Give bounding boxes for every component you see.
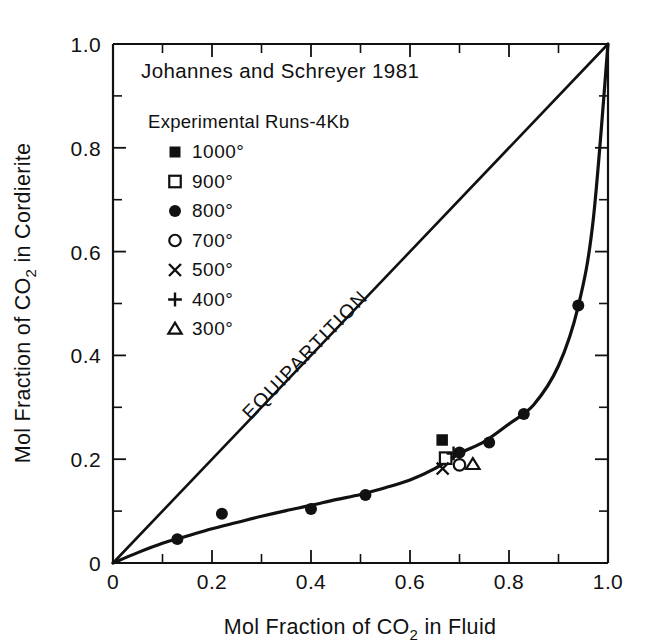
y-axis-title-part2: in Cordierite [11, 143, 35, 269]
filled-circle-marker [483, 437, 495, 449]
series-1000 [436, 434, 448, 446]
plus-marker-legend [168, 293, 182, 307]
y-axis-title-part1: Mol Fraction of CO [11, 277, 35, 463]
y-axis-tick-labels: 00.20.40.60.81.0 [71, 33, 101, 575]
series-300 [466, 458, 479, 469]
x-axis-title-part2: in Fluid [418, 615, 496, 639]
x-tick-label: 0.2 [197, 570, 227, 593]
legend-item-900: 900° [169, 171, 233, 192]
x-axis-tick-labels: 00.20.40.60.81.0 [107, 570, 623, 593]
x-axis-title-part1: Mol Fraction of CO [224, 615, 410, 639]
x-cross-marker-legend [169, 264, 181, 276]
y-tick-label: 0.4 [71, 344, 101, 367]
chart-figure: 00.20.40.60.81.0 00.20.40.60.81.0 EQUIPA… [0, 0, 647, 644]
legend-item-label: 400° [192, 289, 233, 310]
open-triangle-marker-legend [168, 323, 181, 334]
y-tick-label: 0.2 [71, 448, 101, 471]
filled-circle-marker [305, 503, 317, 515]
x-tick-label: 0.8 [494, 570, 524, 593]
legend-item-500: 500° [169, 259, 233, 280]
legend-item-label: 900° [192, 171, 233, 192]
open-circle-marker-legend [169, 235, 181, 247]
filled-circle-marker [171, 533, 183, 545]
y-tick-label: 0.8 [71, 137, 101, 160]
y-tick-label: 0 [89, 552, 101, 575]
legend-item-800: 800° [169, 200, 233, 221]
x-axis-title-subscript: 2 [410, 626, 419, 643]
filled-circle-marker [518, 408, 530, 420]
chart-canvas: 00.20.40.60.81.0 00.20.40.60.81.0 EQUIPA… [0, 0, 647, 644]
filled-circle-marker [572, 300, 584, 312]
chart-title: Johannes and Schreyer 1981 [141, 59, 419, 82]
open-square-marker-legend [169, 176, 181, 188]
filled-circle-marker [216, 508, 228, 520]
y-axis-title: Mol Fraction of CO2 in Cordierite [11, 143, 39, 464]
series-700 [454, 459, 466, 471]
x-axis-title: Mol Fraction of CO2 in Fluid [224, 615, 496, 643]
equipartition-annotation: EQUIPARTITION [238, 286, 372, 424]
legend-item-label: 800° [192, 200, 233, 221]
y-axis-title-subscript: 2 [22, 269, 39, 278]
x-tick-label: 0 [107, 570, 119, 593]
legend-item-label: 1000° [192, 141, 244, 162]
filled-circle-marker-legend [169, 205, 181, 217]
y-tick-label: 0.6 [71, 241, 101, 264]
equipartition-text: EQUIPARTITION [238, 286, 372, 424]
legend-item-1000: 1000° [170, 141, 245, 162]
x-tick-label: 0.6 [395, 570, 425, 593]
legend-item-label: 300° [192, 318, 233, 339]
filled-square-marker [436, 434, 448, 446]
legend: 1000°900°800°700°500°400°300° [168, 141, 244, 339]
open-triangle-marker [466, 458, 479, 469]
x-tick-label: 0.4 [296, 570, 326, 593]
filled-square-marker-legend [170, 147, 181, 158]
y-tick-label: 1.0 [71, 33, 101, 56]
x-tick-label: 1.0 [593, 570, 623, 593]
filled-circle-marker [359, 489, 371, 501]
legend-item-700: 700° [169, 230, 233, 251]
legend-item-label: 700° [192, 230, 233, 251]
legend-item-300: 300° [168, 318, 233, 339]
legend-item-label: 500° [192, 259, 233, 280]
legend-heading: Experimental Runs-4Kb [148, 111, 350, 132]
open-circle-marker [454, 459, 466, 471]
legend-item-400: 400° [168, 289, 233, 310]
